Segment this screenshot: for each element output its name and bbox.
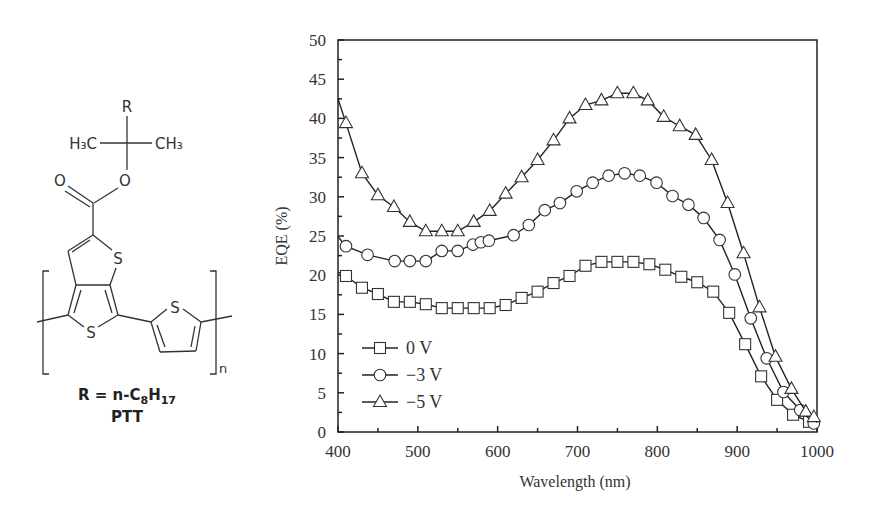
- triangle-marker-icon: [563, 111, 576, 123]
- square-marker-icon: [708, 286, 719, 297]
- bond: [196, 322, 201, 351]
- triangle-marker-icon: [721, 196, 734, 208]
- square-marker-icon: [660, 264, 671, 275]
- y-axis-title: EQE (%): [273, 206, 291, 265]
- x-tick-label: 600: [485, 442, 511, 461]
- circle-marker-icon: [554, 197, 566, 209]
- triangle-marker-icon: [627, 86, 640, 98]
- triangle-marker-icon: [451, 224, 464, 236]
- square-marker-icon: [756, 371, 767, 382]
- square-marker-icon: [548, 278, 559, 289]
- sulfur-label: S: [170, 299, 180, 317]
- legend-item: −5 V: [362, 392, 442, 412]
- methyl-left-label: H₃C: [69, 135, 97, 153]
- triangle-marker-icon: [689, 128, 702, 140]
- r-group-label: R: [122, 98, 132, 116]
- circle-marker-icon: [452, 245, 464, 257]
- y-tick-label: 5: [318, 384, 327, 403]
- square-marker-icon: [372, 289, 383, 300]
- bond: [151, 322, 160, 352]
- circle-marker-icon: [667, 190, 679, 202]
- circle-marker-icon: [420, 255, 432, 267]
- bond: [151, 309, 167, 322]
- square-marker-icon: [676, 271, 687, 282]
- bond: [68, 251, 76, 285]
- x-tick-label: 500: [405, 442, 431, 461]
- right-bracket: [210, 271, 216, 374]
- bond: [98, 315, 118, 327]
- y-tick-label: 20: [309, 266, 326, 285]
- square-marker-icon: [388, 296, 399, 307]
- legend-label: −5 V: [406, 392, 442, 412]
- circle-marker-icon: [603, 170, 615, 182]
- carbonyl-oxygen-label: O: [54, 172, 66, 190]
- circle-marker-icon: [362, 249, 374, 261]
- square-marker-icon: [404, 296, 415, 307]
- x-tick-label: 900: [724, 442, 750, 461]
- bond: [68, 315, 84, 327]
- sulfur-label: S: [86, 324, 96, 342]
- circle-marker-icon: [539, 204, 551, 216]
- legend-item: 0 V: [362, 338, 432, 358]
- square-marker-icon: [564, 270, 575, 281]
- x-tick-label: 400: [325, 442, 351, 461]
- square-marker-icon: [516, 292, 527, 303]
- square-marker-icon: [500, 299, 511, 310]
- triangle-marker-icon: [611, 86, 624, 98]
- circle-marker-icon: [508, 229, 520, 241]
- polymer-name: PTT: [111, 408, 144, 426]
- legend-label: −3 V: [406, 365, 442, 385]
- x-tick-label: 700: [565, 442, 591, 461]
- ester-oxygen-label: O: [119, 172, 131, 190]
- circle-marker-icon: [745, 313, 757, 325]
- bond: [118, 315, 151, 322]
- bond: [160, 351, 196, 352]
- bond: [110, 268, 116, 285]
- repeat-subscript: n: [219, 361, 227, 376]
- bond: [68, 235, 93, 251]
- circle-marker-icon: [587, 177, 599, 189]
- triangle-marker-icon: [387, 200, 400, 212]
- triangle-marker-icon: [419, 224, 432, 236]
- circle-marker-icon: [523, 219, 535, 231]
- square-marker-icon: [596, 256, 607, 267]
- legend: 0 V−3 V−5 V: [362, 338, 442, 412]
- bond: [93, 235, 112, 250]
- circle-marker-icon: [698, 212, 710, 224]
- methyl-right-label: CH₃: [155, 135, 183, 153]
- circle-marker-icon: [634, 170, 646, 182]
- triangle-marker-icon: [673, 119, 686, 131]
- circle-marker-icon: [683, 199, 695, 211]
- y-tick-label: 50: [309, 31, 326, 50]
- circle-marker-icon: [404, 255, 416, 267]
- y-tick-label: 35: [309, 149, 326, 168]
- triangle-marker-icon: [355, 166, 368, 178]
- ptt-structure: R H₃C CH₃ O O S S S: [37, 98, 232, 426]
- square-marker-icon: [375, 343, 386, 354]
- square-marker-icon: [356, 282, 367, 293]
- y-tick-label: 30: [309, 188, 326, 207]
- square-marker-icon: [436, 303, 447, 314]
- bond: [105, 290, 112, 313]
- y-tick-label: 0: [318, 423, 327, 442]
- bond: [191, 326, 195, 347]
- bond: [74, 290, 81, 313]
- x-tick-label: 800: [645, 442, 671, 461]
- circle-marker-icon: [436, 245, 448, 257]
- circle-marker-icon: [340, 240, 352, 252]
- triangle-marker-icon: [737, 246, 750, 257]
- legend-label: 0 V: [406, 338, 432, 358]
- triangle-marker-icon: [435, 224, 448, 236]
- left-bracket: [43, 271, 49, 374]
- circle-marker-icon: [483, 235, 495, 247]
- square-marker-icon: [740, 339, 751, 350]
- square-marker-icon: [420, 299, 431, 310]
- triangle-marker-icon: [753, 300, 766, 312]
- circle-marker-icon: [571, 186, 583, 198]
- y-tick-label: 40: [309, 109, 326, 128]
- bond: [157, 325, 165, 347]
- y-tick-label: 15: [309, 305, 326, 324]
- y-tick-label: 10: [309, 345, 326, 364]
- bond: [183, 309, 201, 322]
- y-tick-label: 45: [309, 70, 326, 89]
